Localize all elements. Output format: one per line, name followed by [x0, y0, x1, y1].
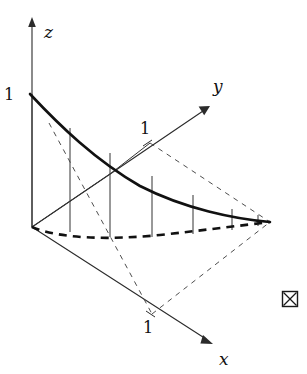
edge-origin-to-midcurve [32, 174, 110, 227]
x-axis-line [32, 227, 206, 339]
y-tick-label-one: 1 [140, 119, 150, 138]
figure-canvas: z y x 1 1 1 [0, 0, 307, 374]
coordinate-sketch-svg: z y x 1 1 1 [0, 0, 307, 374]
crossed-box-icon [283, 292, 298, 307]
dashed-x1-to-corner [152, 222, 270, 314]
y-axis-label: y [212, 76, 223, 96]
base-projection-curve [32, 222, 270, 238]
z-tick-label-one: 1 [4, 85, 14, 104]
z-axis-arrowhead [28, 17, 36, 27]
y-axis-arrowhead [199, 106, 210, 115]
axis-x [32, 227, 213, 344]
dashed-y1-to-corner [150, 143, 270, 222]
surface-upper-curve [30, 94, 270, 222]
x-tick-label-one: 1 [143, 318, 153, 337]
z-axis-label: z [43, 22, 54, 42]
x-axis-label: x [219, 349, 229, 369]
dashed-interior-diagonal [49, 123, 152, 314]
